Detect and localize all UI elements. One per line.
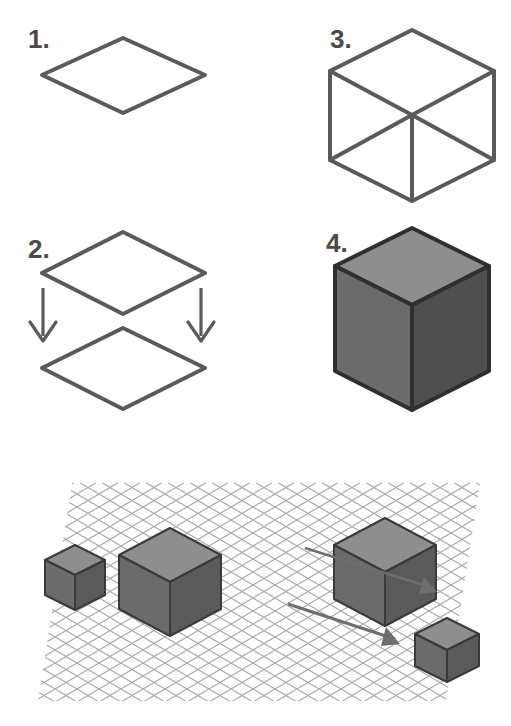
step-3-label: 3. (330, 24, 352, 54)
small-cube-left (45, 545, 105, 610)
isometric-grid-panel (30, 478, 490, 708)
isometric-cube-tutorial-illustration: 1. 2. 3. 4. (0, 0, 511, 726)
step-4-label: 4. (326, 228, 348, 258)
step-1-label: 1. (28, 24, 50, 54)
step-2-label: 2. (28, 234, 50, 264)
